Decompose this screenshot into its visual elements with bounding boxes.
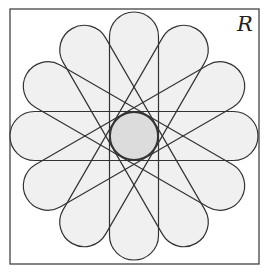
center-circle	[110, 112, 158, 160]
rosette-diagram: R	[0, 0, 268, 272]
region-label: R	[236, 12, 253, 36]
